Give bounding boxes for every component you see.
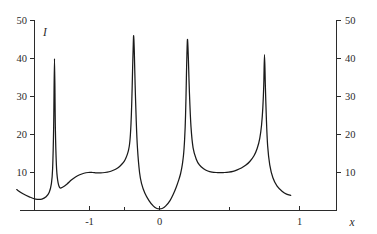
x-ticklabel-minus1: -1 — [85, 216, 94, 227]
y-ticklabel-right-20: 20 — [345, 129, 356, 140]
intensity-curve — [17, 36, 291, 209]
y-ticklabel-right-30: 30 — [345, 91, 356, 102]
intensity-plot: 50 40 30 20 10 50 40 30 20 10 -1 0 1 I x — [0, 0, 377, 234]
y-ticklabel-right-10: 10 — [345, 167, 356, 178]
y-ticklabel-left-50: 50 — [17, 15, 28, 26]
y-ticklabel-right-40: 40 — [345, 53, 356, 64]
x-ticklabel-zero: 0 — [157, 216, 162, 227]
figure-container: 50 40 30 20 10 50 40 30 20 10 -1 0 1 I x — [0, 0, 377, 234]
y-ticklabel-right-50: 50 — [345, 15, 356, 26]
y-ticklabel-left-40: 40 — [17, 53, 28, 64]
y-axis-label: I — [42, 26, 48, 38]
y-ticklabel-left-30: 30 — [17, 91, 28, 102]
x-axis-label: x — [348, 216, 355, 228]
x-ticklabel-plus1: 1 — [297, 216, 302, 227]
y-ticklabel-left-20: 20 — [17, 129, 28, 140]
y-ticklabel-left-10: 10 — [17, 167, 28, 178]
